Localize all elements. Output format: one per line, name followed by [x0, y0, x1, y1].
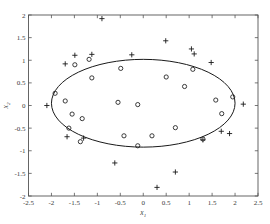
x-tick-label-5: 0: [142, 199, 146, 207]
x-tick-label-3: -1: [94, 199, 100, 207]
ellipse-boundary: [51, 59, 235, 147]
point-circle-10: [116, 100, 120, 104]
point-plus-5: [129, 52, 134, 57]
point-circle-4: [80, 117, 84, 121]
tick-labels-group: -2.5-2-1.5-1-0.500.511.522.5-2-1.5-1-0.5…: [14, 12, 262, 207]
point-plus-4: [89, 52, 94, 57]
y-tick-label-2: -1: [20, 147, 26, 155]
y-tick-label-8: 2: [22, 12, 26, 20]
point-plus-10: [241, 102, 246, 107]
y-axis-title: x2: [1, 102, 11, 109]
point-plus-16: [112, 160, 117, 165]
point-circle-17: [182, 84, 186, 88]
x-tick-label-10: 2.5: [254, 199, 263, 207]
y-tick-label-1: -1.5: [14, 170, 26, 178]
point-circle-11: [136, 102, 140, 106]
point-circle-6: [87, 57, 91, 61]
point-circle-14: [150, 134, 154, 138]
scatter-plot-figure: -2.5-2-1.5-1-0.500.511.522.5-2-1.5-1-0.5…: [0, 0, 270, 224]
point-circle-13: [122, 134, 126, 138]
point-plus-3: [63, 61, 68, 66]
decision-boundary: [51, 59, 235, 147]
point-circle-5: [73, 63, 77, 67]
point-circle-7: [78, 140, 82, 144]
ticks-group: [29, 15, 259, 196]
series-outliers: [44, 16, 246, 190]
x-tick-label-1: -2: [49, 199, 55, 207]
point-circle-9: [119, 66, 123, 70]
point-circle-20: [214, 98, 218, 102]
point-circle-1: [63, 99, 67, 103]
x-tick-label-2: -1.5: [69, 199, 81, 207]
y-tick-label-3: -0.5: [14, 125, 26, 133]
point-plus-6: [189, 46, 194, 51]
y-tick-label-4: 0: [22, 102, 26, 110]
point-plus-15: [227, 131, 232, 136]
x-axis-title: x1: [139, 208, 146, 218]
point-plus-7: [192, 51, 197, 56]
point-plus-8: [209, 60, 214, 65]
axes-group: [29, 15, 259, 196]
point-plus-18: [154, 185, 159, 190]
point-circle-8: [90, 76, 94, 80]
point-circle-2: [70, 112, 74, 116]
x-tick-label-8: 1.5: [208, 199, 217, 207]
y-tick-label-0: -2: [20, 193, 26, 201]
point-plus-0: [99, 16, 104, 21]
point-circle-15: [164, 75, 168, 79]
x-tick-label-9: 2: [233, 199, 237, 207]
point-plus-9: [44, 103, 49, 108]
y-tick-label-5: 0.5: [17, 79, 26, 87]
point-plus-2: [72, 53, 77, 58]
y-tick-label-7: 1.5: [17, 34, 26, 42]
axis-frame: [29, 15, 259, 196]
point-plus-1: [163, 38, 168, 43]
point-circle-18: [191, 67, 195, 71]
point-circle-21: [220, 112, 224, 116]
x-tick-label-4: -0.5: [115, 199, 127, 207]
data-points-group: [44, 16, 246, 190]
plot-canvas: -2.5-2-1.5-1-0.500.511.522.5-2-1.5-1-0.5…: [0, 0, 270, 224]
y-tick-label-6: 1: [22, 57, 26, 65]
x-tick-label-6: 0.5: [162, 199, 171, 207]
point-plus-11: [64, 134, 69, 139]
point-plus-14: [219, 129, 224, 134]
point-plus-17: [173, 169, 178, 174]
point-circle-16: [173, 126, 177, 130]
x-tick-label-7: 1: [187, 199, 191, 207]
